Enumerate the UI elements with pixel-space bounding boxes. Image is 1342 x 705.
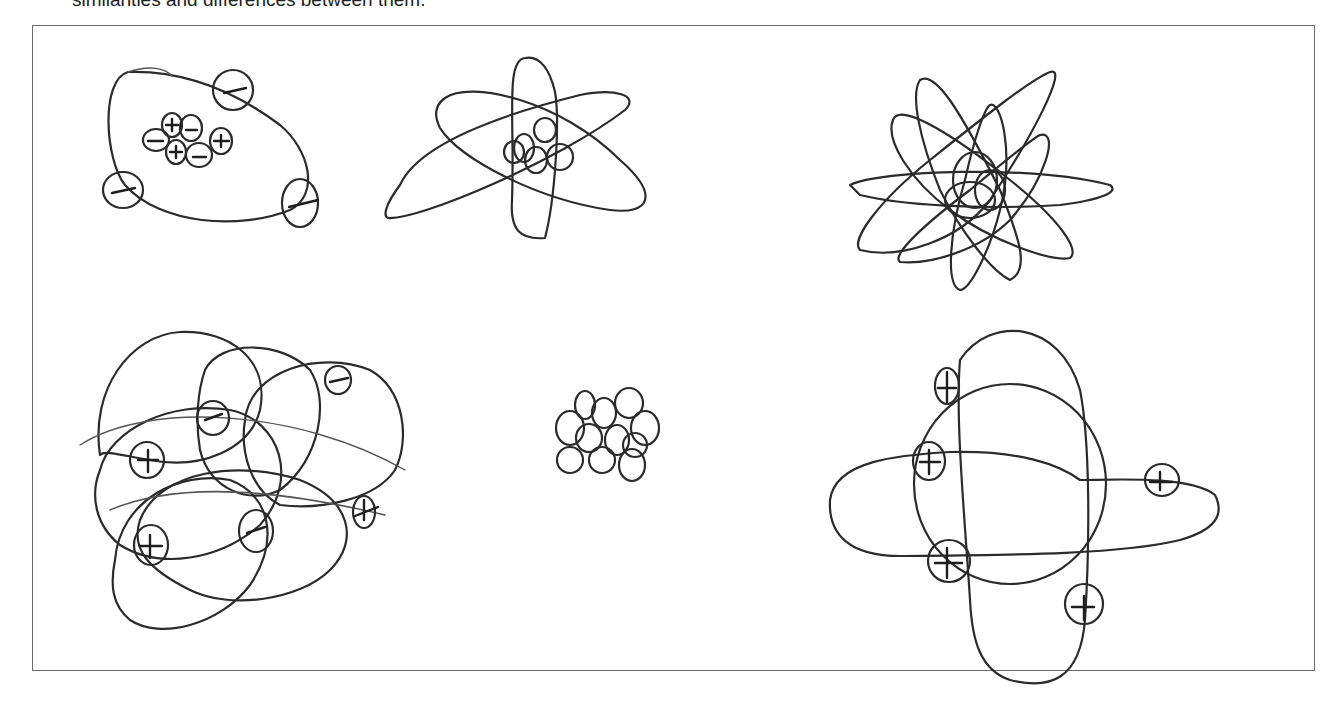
- sketch-3: [850, 72, 1113, 290]
- sketch-6: [830, 331, 1219, 684]
- sketches-canvas: [0, 0, 1342, 705]
- sketch-5: [556, 388, 659, 481]
- sketch-4: [80, 332, 405, 629]
- sketch-2: [386, 58, 646, 239]
- sketch-1: [103, 68, 318, 227]
